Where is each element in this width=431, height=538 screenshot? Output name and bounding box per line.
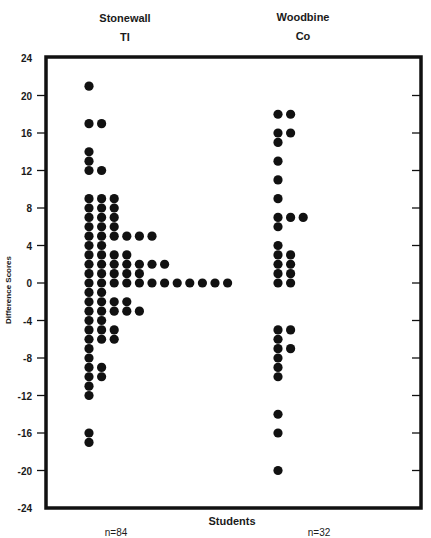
y-tick-label: -16 (18, 428, 33, 439)
data-point-stonewall (97, 278, 106, 287)
data-point-stonewall (84, 372, 93, 381)
data-point-stonewall (97, 297, 106, 306)
data-point-stonewall (84, 335, 93, 344)
x-axis-label: Students (208, 515, 255, 527)
data-point-woodbine (273, 335, 282, 344)
data-point-stonewall (84, 260, 93, 269)
data-point-woodbine (286, 213, 295, 222)
data-point-stonewall (97, 194, 106, 203)
data-point-stonewall (97, 288, 106, 297)
data-point-stonewall (97, 203, 106, 212)
data-point-stonewall (122, 232, 131, 241)
data-point-stonewall (223, 278, 232, 287)
data-point-stonewall (110, 194, 119, 203)
data-point-stonewall (97, 316, 106, 325)
data-point-stonewall (84, 269, 93, 278)
data-point-woodbine (273, 372, 282, 381)
data-point-stonewall (97, 269, 106, 278)
data-point-stonewall (110, 297, 119, 306)
data-point-woodbine (273, 175, 282, 184)
data-point-stonewall (198, 278, 207, 287)
data-point-woodbine (286, 128, 295, 137)
data-point-woodbine (273, 363, 282, 372)
data-point-woodbine (286, 250, 295, 259)
data-point-stonewall (97, 250, 106, 259)
data-point-stonewall (185, 278, 194, 287)
data-point-stonewall (135, 278, 144, 287)
data-point-stonewall (110, 222, 119, 231)
data-point-woodbine (273, 353, 282, 362)
data-point-stonewall (84, 428, 93, 437)
data-point-stonewall (97, 222, 106, 231)
y-tick-label: 24 (21, 53, 33, 64)
data-point-stonewall (84, 82, 93, 91)
data-point-woodbine (286, 110, 295, 119)
data-point-stonewall (122, 278, 131, 287)
data-point-stonewall (84, 297, 93, 306)
y-tick-label: -4 (23, 316, 32, 327)
data-point-stonewall (84, 157, 93, 166)
data-point-stonewall (84, 363, 93, 372)
group-2-subname: Co (296, 30, 311, 42)
y-tick-label: -12 (18, 391, 33, 402)
data-point-stonewall (135, 307, 144, 316)
data-point-stonewall (97, 241, 106, 250)
y-tick-label: -24 (18, 503, 33, 514)
data-point-stonewall (110, 250, 119, 259)
y-tick-label: -8 (23, 353, 32, 364)
data-point-woodbine (286, 344, 295, 353)
data-point-stonewall (173, 278, 182, 287)
data-point-woodbine (299, 213, 308, 222)
data-point-woodbine (286, 278, 295, 287)
data-point-stonewall (84, 344, 93, 353)
data-point-woodbine (273, 344, 282, 353)
data-point-stonewall (110, 269, 119, 278)
data-point-stonewall (84, 382, 93, 391)
data-point-stonewall (97, 363, 106, 372)
data-point-woodbine (273, 260, 282, 269)
data-point-stonewall (110, 325, 119, 334)
data-point-woodbine (286, 269, 295, 278)
data-point-woodbine (273, 194, 282, 203)
data-point-woodbine (273, 157, 282, 166)
data-point-woodbine (273, 128, 282, 137)
data-point-stonewall (110, 232, 119, 241)
data-point-stonewall (210, 278, 219, 287)
data-point-stonewall (110, 203, 119, 212)
data-point-stonewall (97, 119, 106, 128)
data-point-stonewall (84, 203, 93, 212)
data-point-stonewall (160, 278, 169, 287)
data-point-stonewall (84, 307, 93, 316)
data-point-stonewall (110, 278, 119, 287)
data-point-stonewall (110, 307, 119, 316)
y-tick-label: 4 (26, 241, 32, 252)
data-point-stonewall (84, 288, 93, 297)
data-point-stonewall (84, 119, 93, 128)
data-point-stonewall (122, 250, 131, 259)
dot-plot-chart: Stonewall TI Woodbine Co 24201612840-4-8… (0, 0, 431, 538)
data-point-stonewall (84, 232, 93, 241)
data-point-stonewall (135, 269, 144, 278)
data-point-stonewall (97, 260, 106, 269)
data-point-stonewall (97, 372, 106, 381)
data-point-stonewall (84, 438, 93, 447)
data-point-stonewall (84, 278, 93, 287)
data-point-stonewall (97, 307, 106, 316)
data-point-stonewall (97, 213, 106, 222)
data-point-stonewall (84, 325, 93, 334)
data-point-woodbine (273, 110, 282, 119)
y-tick-label: 20 (21, 91, 33, 102)
data-point-stonewall (97, 166, 106, 175)
data-point-stonewall (160, 260, 169, 269)
data-point-woodbine (273, 278, 282, 287)
data-point-woodbine (273, 222, 282, 231)
data-points (84, 82, 307, 476)
data-point-stonewall (97, 325, 106, 334)
data-point-stonewall (84, 353, 93, 362)
data-point-woodbine (273, 241, 282, 250)
data-point-woodbine (273, 138, 282, 147)
y-tick-label: -20 (18, 466, 33, 477)
data-point-woodbine (286, 260, 295, 269)
data-point-stonewall (84, 316, 93, 325)
data-point-woodbine (273, 466, 282, 475)
